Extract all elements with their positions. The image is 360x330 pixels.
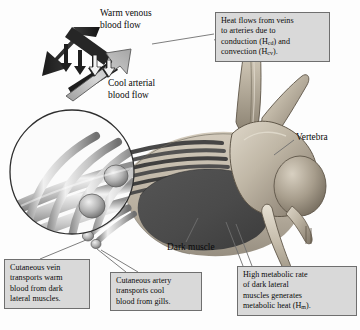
callout-metab-line1: High metabolic rate [243, 270, 352, 280]
callout-artery-line3: blood from gills. [116, 297, 197, 307]
callout-metab-line4: metabolic heat (Hm). [243, 301, 352, 311]
label-cool-arterial-line2: blood flow [108, 90, 155, 102]
leader-artery [97, 249, 126, 272]
diagram-canvas: Warm venous blood flow Cool arterial blo… [0, 0, 360, 330]
callout-metab-line2: of dark lateral [243, 280, 352, 290]
callout-vein-line4: lateral muscles. [10, 294, 85, 304]
label-cool-arterial-blood-flow: Cool arterial blood flow [108, 78, 155, 101]
label-dark-muscle: Dark muscle [167, 242, 215, 254]
callout-cutaneous-artery: Cutaneous artery transports cool blood f… [110, 272, 202, 311]
label-warm-venous-line2: blood flow [100, 20, 152, 32]
callout-artery-line1: Cutaneous artery [116, 276, 197, 286]
callout-vein-line3: blood from dark [10, 284, 85, 294]
callout-heat-line1: Heat flows from veins [221, 16, 325, 26]
callout-vein-line1: Cutaneous vein [10, 263, 85, 273]
callout-vein-line2: transports warm [10, 273, 85, 283]
callout-heat-line4: convection (Hcv). [221, 47, 325, 57]
label-vertebra: Vertebra [296, 132, 328, 144]
leader-vein [40, 240, 86, 259]
callout-metabolic-rate: High metabolic rate of dark lateral musc… [237, 266, 357, 316]
callout-heat-line2: to arteries due to [221, 26, 325, 36]
callout-metab-line3: muscles generates [243, 291, 352, 301]
label-cool-arterial-line1: Cool arterial [108, 78, 155, 90]
label-warm-venous-line1: Warm venous [100, 8, 152, 20]
leader-heat-flow [152, 34, 214, 44]
cutaneous-artery-end [91, 239, 101, 248]
callout-heat-line3: conduction (Hcd) and [221, 37, 325, 47]
callout-cutaneous-vein: Cutaneous vein transports warm blood fro… [4, 259, 90, 309]
callout-artery-line2: transports cool [116, 286, 197, 296]
label-warm-venous-blood-flow: Warm venous blood flow [100, 8, 152, 31]
callout-heat-flow: Heat flows from veins to arteries due to… [215, 12, 330, 62]
vertebral-centrum [274, 156, 326, 216]
